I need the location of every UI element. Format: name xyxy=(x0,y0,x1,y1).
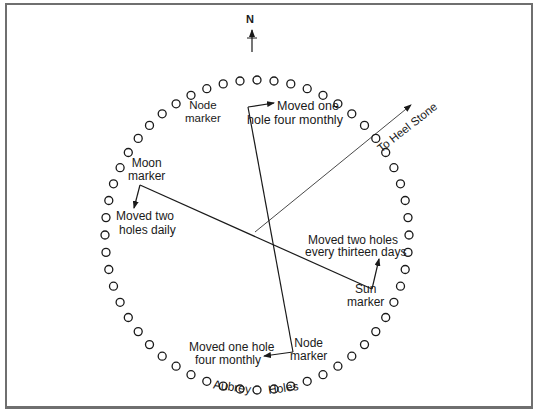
aubrey-hole xyxy=(102,248,110,256)
aubrey-hole xyxy=(110,180,118,188)
aubrey-hole xyxy=(172,362,180,370)
aubrey-hole xyxy=(303,85,311,93)
aubrey-hole xyxy=(401,197,409,205)
north-label: N xyxy=(246,13,254,26)
aubrey-hole xyxy=(203,377,211,385)
aubrey-hole xyxy=(253,386,261,394)
node-bottom-move-label: Moved one hole four monthly xyxy=(189,341,274,367)
aubrey-hole xyxy=(158,110,166,118)
aubrey-hole xyxy=(361,121,369,129)
aubrey-hole xyxy=(146,341,154,349)
moon-marker-label: Moon marker xyxy=(128,157,165,183)
aubrey-hole xyxy=(102,214,110,222)
aubrey-hole xyxy=(124,314,132,322)
aubrey-hole xyxy=(397,180,405,188)
aubrey-hole xyxy=(382,314,390,322)
moon-move-label: Moved two holes daily xyxy=(116,209,176,237)
north-arrow-icon xyxy=(247,30,257,52)
node-axis-line xyxy=(248,107,293,352)
aubrey-hole xyxy=(101,231,109,239)
node-marker-bottom-label: Node marker xyxy=(290,337,327,363)
aubrey-hole xyxy=(187,371,195,379)
aubrey-hole xyxy=(397,282,405,290)
aubrey-hole xyxy=(303,377,311,385)
aubrey-hole xyxy=(116,298,124,306)
aubrey-hole xyxy=(319,371,327,379)
aubrey-hole xyxy=(390,164,398,172)
aubrey-hole xyxy=(348,352,356,360)
aubrey-hole xyxy=(253,76,261,84)
aubrey-hole xyxy=(372,328,380,336)
aubrey-hole xyxy=(105,266,113,274)
aubrey-hole xyxy=(203,85,211,93)
aubrey-hole xyxy=(270,77,278,85)
aubrey-hole xyxy=(334,362,342,370)
aubrey-hole xyxy=(158,352,166,360)
sun-move-label: Moved two holes every thirteen days xyxy=(305,234,406,258)
aubrey-hole xyxy=(287,80,295,88)
aubrey-hole xyxy=(401,266,409,274)
aubrey-hole xyxy=(146,121,154,129)
aubrey-hole xyxy=(134,328,142,336)
aubrey-hole xyxy=(172,100,180,108)
node-top-move-label: Moved one hole four monthly xyxy=(247,99,343,127)
aubrey-hole xyxy=(390,298,398,306)
aubrey-hole xyxy=(348,110,356,118)
aubrey-hole xyxy=(116,164,124,172)
aubrey-hole xyxy=(134,134,142,142)
moon-move-arrow xyxy=(134,185,140,208)
aubrey-hole xyxy=(110,282,118,290)
aubrey-hole xyxy=(105,197,113,205)
aubrey-hole xyxy=(219,80,227,88)
aubrey-hole xyxy=(361,341,369,349)
node-marker-top-label: Node marker xyxy=(185,99,221,125)
aubrey-hole xyxy=(236,77,244,85)
sun-marker-label: Sun marker xyxy=(347,283,384,309)
aubrey-hole xyxy=(404,214,412,222)
